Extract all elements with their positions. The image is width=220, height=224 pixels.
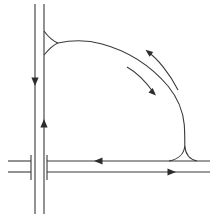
upper-cusp-branch-bottom (44, 43, 58, 55)
arrowhead-down-right-on-inner-arc (149, 88, 157, 95)
arrowhead-down-on-left-vertical-line (31, 78, 38, 87)
arrowhead-right-on-lower-horizontal-line (168, 168, 177, 175)
direction-arc-inner (127, 67, 154, 93)
lower-cusp-branch-right (185, 146, 197, 161)
diagram-canvas (0, 0, 220, 224)
upper-cusp-branch-top (44, 31, 58, 43)
phase-portrait-diagram (0, 0, 220, 224)
lower-cusp-branch-left (169, 146, 185, 161)
arrowhead-left-on-upper-horizontal-line (94, 157, 103, 164)
arrowhead-up-on-right-vertical-line (40, 119, 47, 128)
main-loop-curve (58, 41, 185, 146)
